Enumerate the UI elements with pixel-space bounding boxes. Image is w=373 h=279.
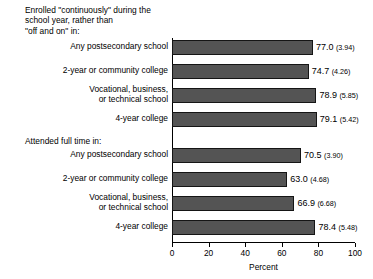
- bar-value-number: 74.7: [312, 66, 332, 76]
- bar-value-number: 78.9: [319, 90, 339, 100]
- bar-value-number: 63.0: [290, 174, 310, 184]
- category-label-g1-any-postsecondary-school: Any postsecondary school: [4, 150, 172, 160]
- bar-g1-2-year-or-community-college: [172, 172, 287, 187]
- x-axis-spine: [172, 242, 355, 243]
- bar-value-g1-4-year-college: 78.4 (5.48): [318, 220, 357, 235]
- plot-area: 77.0 (3.94) 74.7 (4.26) 78.9 (5.85) 79.1…: [172, 38, 355, 242]
- category-label-g0-2-year-or-community-college: 2-year or community college: [4, 66, 172, 76]
- bar-chart: Enrolled "continuously" during the schoo…: [0, 0, 373, 279]
- bar-value-g1-any-postsecondary-school: 70.5 (3.90): [304, 148, 343, 163]
- bar-value-standard-error: (4.26): [332, 67, 351, 76]
- x-tick-mark-80: [318, 243, 319, 247]
- bar-g1-any-postsecondary-school: [172, 148, 301, 163]
- bar-value-number: 77.0: [316, 42, 336, 52]
- x-tick-label-80: 80: [314, 248, 323, 258]
- bar-value-number: 78.4: [318, 222, 338, 232]
- category-label-g0-any-postsecondary-school: Any postsecondary school: [4, 42, 172, 52]
- bar-value-g0-4-year-college: 79.1 (5.42): [320, 112, 359, 127]
- bar-g0-any-postsecondary-school: [172, 40, 313, 55]
- bar-value-standard-error: (4.68): [310, 175, 329, 184]
- bar-value-number: 70.5: [304, 150, 324, 160]
- bar-value-standard-error: (6.68): [317, 199, 336, 208]
- x-tick-label-20: 20: [204, 248, 213, 258]
- bar-value-g0-vocational-business-or-technical-school: 78.9 (5.85): [319, 88, 358, 103]
- bar-g0-vocational-business-or-technical-school: [172, 88, 316, 103]
- bar-value-standard-error: (5.42): [340, 115, 359, 124]
- bar-value-g1-2-year-or-community-college: 63.0 (4.68): [290, 172, 329, 187]
- bar-value-number: 79.1: [320, 114, 340, 124]
- x-tick-mark-60: [282, 243, 283, 247]
- group-heading-enrolled-continuously: Enrolled "continuously" during the schoo…: [25, 5, 151, 36]
- x-tick-mark-0: [172, 243, 173, 247]
- group-heading-attended-full-time: Attended full time in:: [25, 136, 101, 146]
- bar-value-standard-error: (5.48): [339, 223, 358, 232]
- bar-value-standard-error: (3.94): [336, 43, 355, 52]
- bar-g0-4-year-college: [172, 112, 317, 127]
- bar-value-g0-any-postsecondary-school: 77.0 (3.94): [316, 40, 355, 55]
- bar-value-g1-vocational-business-or-technical-school: 66.9 (6.68): [297, 196, 336, 211]
- bar-g0-2-year-or-community-college: [172, 64, 309, 79]
- category-label-g1-vocational-business-or-technical-school: Vocational, business, or technical schoo…: [4, 193, 172, 212]
- category-label-g0-4-year-college: 4-year college: [4, 114, 172, 124]
- bar-g1-vocational-business-or-technical-school: [172, 196, 294, 211]
- bar-value-standard-error: (5.85): [339, 91, 358, 100]
- x-tick-label-0: 0: [170, 248, 175, 258]
- x-tick-mark-20: [209, 243, 210, 247]
- x-tick-mark-40: [245, 243, 246, 247]
- bar-value-standard-error: (3.90): [324, 151, 343, 160]
- x-tick-label-60: 60: [277, 248, 286, 258]
- bar-g1-4-year-college: [172, 220, 315, 235]
- category-label-g1-4-year-college: 4-year college: [4, 222, 172, 232]
- x-tick-label-40: 40: [241, 248, 250, 258]
- x-tick-label-100: 100: [348, 248, 362, 258]
- bar-value-number: 66.9: [297, 198, 317, 208]
- x-tick-mark-100: [355, 243, 356, 247]
- category-label-g1-2-year-or-community-college: 2-year or community college: [4, 174, 172, 184]
- category-label-g0-vocational-business-or-technical-school: Vocational, business, or technical schoo…: [4, 85, 172, 104]
- bar-value-g0-2-year-or-community-college: 74.7 (4.26): [312, 64, 351, 79]
- x-axis-title: Percent: [172, 262, 355, 272]
